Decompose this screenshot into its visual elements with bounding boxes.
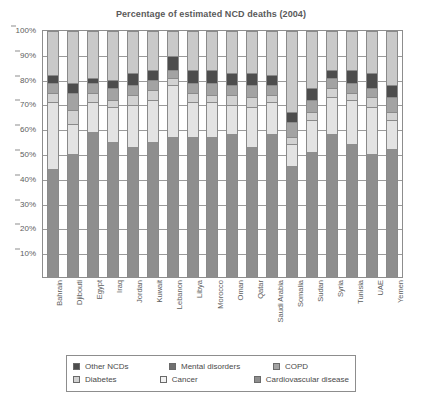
stacked-bar[interactable] [246, 31, 258, 277]
bar-segment [227, 31, 237, 73]
bar-segment [88, 102, 98, 132]
bar-segment [267, 134, 277, 277]
x-axis-label-slot: Iraq [102, 280, 122, 342]
bar-slot [342, 31, 362, 277]
stacked-bar[interactable] [306, 31, 318, 277]
bar-segment [108, 80, 118, 87]
bar-slot [322, 31, 342, 277]
stacked-bar[interactable] [147, 31, 159, 277]
bar-segment [148, 142, 158, 277]
stacked-bar[interactable] [127, 31, 139, 277]
legend-item[interactable]: Mental disorders [169, 362, 273, 371]
square-swatch-icon [73, 363, 80, 370]
legend-item[interactable]: Other NCDs [73, 362, 169, 371]
x-axis-label-slot: Sudan [303, 280, 323, 342]
bar-segment [267, 31, 277, 75]
bar-segment [247, 31, 257, 73]
stacked-bar[interactable] [206, 31, 218, 277]
bar-slot [63, 31, 83, 277]
bar-segment [108, 107, 118, 141]
bar-segment [347, 31, 357, 70]
bar-segment [148, 90, 158, 100]
x-axis-label-slot: Tunisia [343, 280, 363, 342]
bar-segment [227, 73, 237, 85]
y-axis-tick-mark [15, 75, 20, 76]
legend-row: Other NCDsMental disordersCOPD [73, 360, 349, 373]
y-axis-tick-mark [15, 224, 20, 225]
bar-segment [168, 85, 178, 137]
legend-item-label: Diabetes [85, 375, 117, 384]
bar-segment [188, 93, 198, 103]
bar-segment [367, 107, 377, 154]
stacked-bar[interactable] [366, 31, 378, 277]
bar-segment [247, 85, 257, 97]
bar-segment [128, 73, 138, 85]
bar-segment [128, 147, 138, 277]
bar-segment [347, 144, 357, 277]
legend-item[interactable]: Diabetes [73, 375, 160, 384]
bar-slot [282, 31, 302, 277]
bar-segment [307, 31, 317, 88]
stacked-bar[interactable] [187, 31, 199, 277]
x-axis-label-slot: Jordan [122, 280, 142, 342]
legend-item-label: COPD [285, 362, 308, 371]
stacked-bar[interactable] [346, 31, 358, 277]
stacked-bar[interactable] [47, 31, 59, 277]
bar-slot [143, 31, 163, 277]
bar-segment [188, 31, 198, 70]
bar-segment [347, 70, 357, 82]
stacked-bar[interactable] [286, 31, 298, 277]
bar-segment [367, 73, 377, 88]
bar-segment [287, 112, 297, 122]
x-axis-label-slot: Bahrain [42, 280, 62, 342]
bar-segment [267, 95, 277, 102]
bar-segment [227, 134, 237, 277]
bar-segment [247, 107, 257, 146]
stacked-bar[interactable] [326, 31, 338, 277]
bar-segment [88, 83, 98, 93]
bar-segment [307, 152, 317, 277]
y-axis-tick-label: 100% [16, 26, 36, 35]
bar-segment [247, 73, 257, 85]
y-axis-tick-mark [15, 150, 20, 151]
stacked-bar[interactable] [226, 31, 238, 277]
bar-segment [307, 88, 317, 100]
plot-area [42, 30, 403, 278]
chart-legend: Other NCDsMental disordersCOPDDiabetesCa… [66, 355, 356, 392]
legend-item[interactable]: COPD [273, 362, 349, 371]
x-axis-label-slot: Saudi Arabia [263, 280, 283, 342]
bar-segment [168, 137, 178, 277]
x-axis-tick-label: Yemen [396, 280, 405, 303]
bar-slot [103, 31, 123, 277]
x-axis-label-slot: Morocco [203, 280, 223, 342]
bar-segment [227, 85, 237, 95]
bar-segment [367, 97, 377, 107]
legend-row: DiabetesCancerCardiovascular disease [73, 373, 349, 386]
y-axis-tick-label: 50% [20, 150, 36, 159]
y-axis-tick-mark [15, 50, 20, 51]
bar-segment [188, 83, 198, 93]
legend-item[interactable]: Cardiovascular disease [254, 375, 349, 384]
bar-slot [123, 31, 143, 277]
bar-segment [327, 88, 337, 98]
bar-segment [207, 83, 217, 95]
bar-segment [168, 78, 178, 85]
stacked-bar[interactable] [386, 31, 398, 277]
bar-segment [387, 31, 397, 85]
bar-slot [222, 31, 242, 277]
bar-segment [188, 70, 198, 82]
legend-item[interactable]: Cancer [160, 375, 254, 384]
bar-segment [168, 56, 178, 71]
bar-slot [242, 31, 262, 277]
bar-segment [108, 142, 118, 277]
chart-container: Percentage of estimated NCD deaths (2004… [0, 0, 422, 402]
bar-segment [68, 154, 78, 277]
stacked-bar[interactable] [167, 31, 179, 277]
bars-layer [43, 31, 402, 277]
bar-segment [148, 31, 158, 70]
stacked-bar[interactable] [67, 31, 79, 277]
stacked-bar[interactable] [87, 31, 99, 277]
bar-segment [207, 31, 217, 70]
stacked-bar[interactable] [107, 31, 119, 277]
stacked-bar[interactable] [266, 31, 278, 277]
